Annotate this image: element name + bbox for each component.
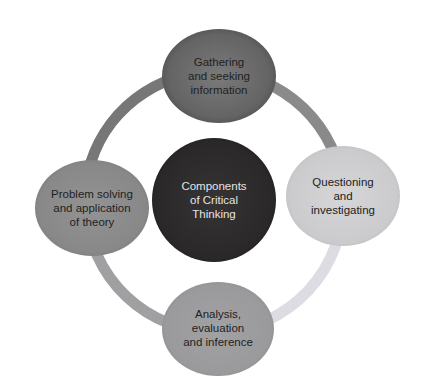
node-top-label: Gathering and seeking information <box>164 50 274 102</box>
node-right-label: Questioning and investigating <box>288 170 398 222</box>
node-left-label: Problem solving and application of theor… <box>34 182 150 234</box>
node-bottom-label: Analysis, evaluation and inference <box>162 302 274 354</box>
center-label: Components of Critical Thinking <box>160 172 268 228</box>
